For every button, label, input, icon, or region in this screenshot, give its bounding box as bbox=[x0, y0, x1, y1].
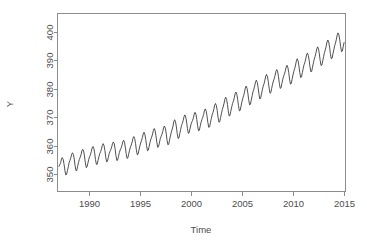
y-tick-label: 380 bbox=[44, 82, 55, 98]
y-axis-tick-labels: 350360370380390400 bbox=[44, 25, 55, 183]
time-series-chart: 350360370380390400 199019952000200520102… bbox=[0, 0, 367, 245]
y-tick-label: 360 bbox=[44, 139, 55, 155]
x-tick-label: 1995 bbox=[130, 198, 151, 209]
x-axis-title: Time bbox=[191, 224, 212, 235]
x-tick-label: 2015 bbox=[334, 198, 355, 209]
data-series-group bbox=[59, 33, 344, 175]
y-tick-label: 400 bbox=[44, 25, 55, 41]
plot-panel-border bbox=[58, 14, 346, 192]
x-tick-label: 1990 bbox=[79, 198, 100, 209]
x-tick-label: 2000 bbox=[181, 198, 202, 209]
y-tick-label: 370 bbox=[44, 110, 55, 126]
series-line-y bbox=[59, 33, 344, 175]
x-tick-label: 2010 bbox=[283, 198, 304, 209]
y-tick-label: 390 bbox=[44, 53, 55, 69]
y-axis-title: Y bbox=[4, 100, 15, 107]
x-axis-tick-labels: 199019952000200520102015 bbox=[79, 198, 355, 209]
y-tick-label: 350 bbox=[44, 167, 55, 183]
x-axis-ticks bbox=[90, 192, 345, 196]
x-tick-label: 2005 bbox=[232, 198, 253, 209]
plot-container: 350360370380390400 199019952000200520102… bbox=[0, 0, 367, 245]
